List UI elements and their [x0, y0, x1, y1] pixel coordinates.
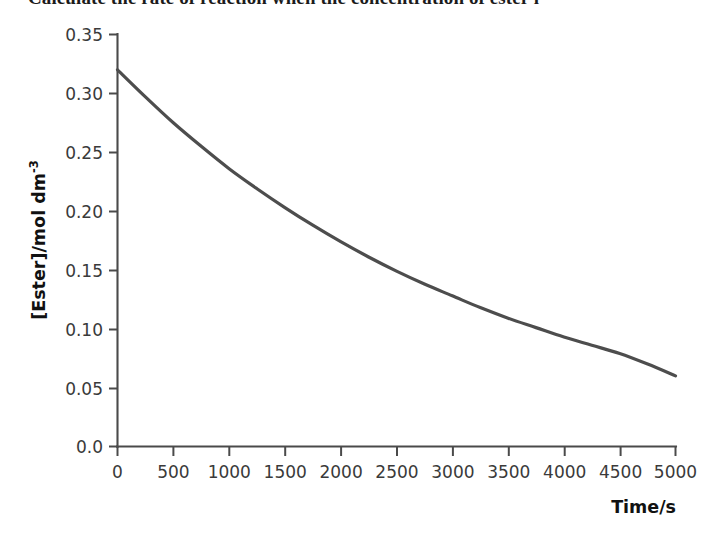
x-tick-label: 2500: [375, 462, 418, 482]
y-axis-ticks: [109, 35, 117, 447]
x-tick-label: 500: [157, 462, 189, 482]
concentration-time-chart: 0.35 0.30 0.25 0.20 0.15 0.10 0.05 0.0 0: [0, 0, 722, 534]
x-tick-label: 1500: [264, 462, 307, 482]
y-axis-title-exponent: -3: [27, 160, 41, 173]
y-tick-label: 0.30: [65, 84, 103, 104]
y-tick-label: 0.25: [65, 143, 103, 163]
x-tick-label: 1000: [208, 462, 251, 482]
x-tick-label: 2000: [319, 462, 362, 482]
x-tick-label: 5000: [654, 462, 697, 482]
y-tick-label: 0.15: [65, 261, 103, 281]
y-tick-label: 0.10: [65, 320, 103, 340]
x-tick-label: 3000: [431, 462, 474, 482]
x-axis-tick-labels: 0 500 1000 1500 2000 2500 3000 3500 4000…: [112, 462, 697, 482]
x-tick-label: 4000: [543, 462, 586, 482]
svg-text:[Ester]/mol dm-3: [Ester]/mol dm-3: [27, 160, 49, 320]
y-tick-label: 0.05: [65, 379, 103, 399]
x-tick-label: 4500: [599, 462, 642, 482]
chart-page: Calculate the rate of reaction when the …: [0, 0, 722, 534]
plot-area-background: [117, 34, 676, 447]
y-tick-label: 0.0: [76, 437, 103, 457]
x-axis-ticks: [118, 447, 676, 456]
x-axis-title: Time/s: [611, 497, 676, 517]
y-tick-label: 0.20: [65, 202, 103, 222]
x-tick-label: 3500: [487, 462, 530, 482]
x-tick-label: 0: [112, 462, 123, 482]
y-axis-title-base: [Ester]/mol dm: [29, 173, 49, 320]
y-axis-title: [Ester]/mol dm-3: [27, 160, 49, 320]
y-tick-label: 0.35: [65, 25, 103, 45]
y-axis-tick-labels: 0.35 0.30 0.25 0.20 0.15 0.10 0.05 0.0: [65, 25, 103, 457]
